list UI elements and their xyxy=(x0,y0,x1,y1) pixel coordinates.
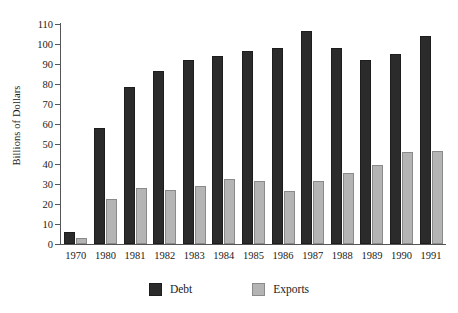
y-axis-tick-label: 60 xyxy=(19,119,53,130)
bar-exports-1982[interactable] xyxy=(165,190,176,244)
bar-chart: Billions of Dollars 01020304050607080901… xyxy=(0,0,458,313)
legend-swatch-debt xyxy=(149,283,162,296)
bar-debt-1981[interactable] xyxy=(124,87,135,244)
x-axis-line xyxy=(60,244,446,245)
bar-debt-1991[interactable] xyxy=(420,36,431,244)
bar-debt-1983[interactable] xyxy=(183,60,194,244)
legend-label: Exports xyxy=(273,283,309,295)
bar-group xyxy=(357,24,387,244)
x-axis-tick-label: 1983 xyxy=(179,250,209,266)
y-axis-tick-label: 50 xyxy=(19,139,53,150)
bar-debt-1989[interactable] xyxy=(360,60,371,244)
bar-exports-1987[interactable] xyxy=(313,181,324,244)
plot-area: 0102030405060708090100110 xyxy=(61,24,446,244)
bar-group xyxy=(61,24,91,244)
x-axis-tick-label: 1986 xyxy=(268,250,298,266)
legend-item-exports[interactable]: Exports xyxy=(252,283,309,296)
bar-group xyxy=(120,24,150,244)
bar-debt-1988[interactable] xyxy=(331,48,342,244)
bar-debt-1984[interactable] xyxy=(212,56,223,244)
bar-exports-1970[interactable] xyxy=(76,238,87,244)
bar-debt-1987[interactable] xyxy=(301,31,312,244)
x-axis-tick-label: 1987 xyxy=(298,250,328,266)
bar-exports-1989[interactable] xyxy=(372,165,383,244)
y-axis-tick-label: 80 xyxy=(19,79,53,90)
bar-group xyxy=(268,24,298,244)
y-axis-tick-mark xyxy=(55,244,61,245)
bar-debt-1985[interactable] xyxy=(242,51,253,244)
x-axis-tick-label: 1989 xyxy=(357,250,387,266)
bar-debt-1982[interactable] xyxy=(153,71,164,244)
x-axis-tick-label: 1985 xyxy=(239,250,269,266)
legend-item-debt[interactable]: Debt xyxy=(149,283,192,296)
x-axis-tick-label: 1982 xyxy=(150,250,180,266)
y-axis-tick-label: 20 xyxy=(19,199,53,210)
bar-debt-1990[interactable] xyxy=(390,54,401,244)
bar-exports-1988[interactable] xyxy=(343,173,354,244)
x-axis-tick-label: 1981 xyxy=(120,250,150,266)
bar-debt-1980[interactable] xyxy=(94,128,105,244)
x-axis-tick-label: 1970 xyxy=(61,250,91,266)
legend-swatch-exports xyxy=(252,283,265,296)
bar-group xyxy=(298,24,328,244)
y-axis-tick-label: 0 xyxy=(19,239,53,250)
y-axis-tick-label: 70 xyxy=(19,99,53,110)
bar-group xyxy=(150,24,180,244)
bar-exports-1984[interactable] xyxy=(224,179,235,244)
x-axis-tick-label: 1980 xyxy=(91,250,121,266)
x-axis-tick-label: 1990 xyxy=(387,250,417,266)
bar-exports-1986[interactable] xyxy=(284,191,295,244)
x-axis-labels: 1970198019811982198319841985198619871988… xyxy=(61,250,446,266)
y-axis-tick-label: 100 xyxy=(19,39,53,50)
bar-group xyxy=(239,24,269,244)
bar-group xyxy=(209,24,239,244)
bar-group xyxy=(387,24,417,244)
bar-exports-1985[interactable] xyxy=(254,181,265,244)
y-axis-tick-label: 10 xyxy=(19,219,53,230)
bar-groups xyxy=(61,24,446,244)
chart-legend: DebtExports xyxy=(0,279,458,299)
bar-debt-1970[interactable] xyxy=(64,232,75,244)
x-axis-tick-label: 1991 xyxy=(416,250,446,266)
bar-exports-1990[interactable] xyxy=(402,152,413,244)
y-axis-tick-label: 110 xyxy=(19,19,53,30)
legend-label: Debt xyxy=(170,283,192,295)
bar-group xyxy=(327,24,357,244)
bar-group xyxy=(416,24,446,244)
x-axis-tick-label: 1988 xyxy=(327,250,357,266)
x-axis-tick-label: 1984 xyxy=(209,250,239,266)
bar-exports-1991[interactable] xyxy=(432,151,443,244)
bar-exports-1980[interactable] xyxy=(106,199,117,244)
y-axis-tick-label: 90 xyxy=(19,59,53,70)
bar-exports-1981[interactable] xyxy=(136,188,147,244)
y-axis-tick-label: 40 xyxy=(19,159,53,170)
bar-exports-1983[interactable] xyxy=(195,186,206,244)
bar-group xyxy=(91,24,121,244)
y-axis-tick-label: 30 xyxy=(19,179,53,190)
bar-debt-1986[interactable] xyxy=(272,48,283,244)
bar-group xyxy=(179,24,209,244)
